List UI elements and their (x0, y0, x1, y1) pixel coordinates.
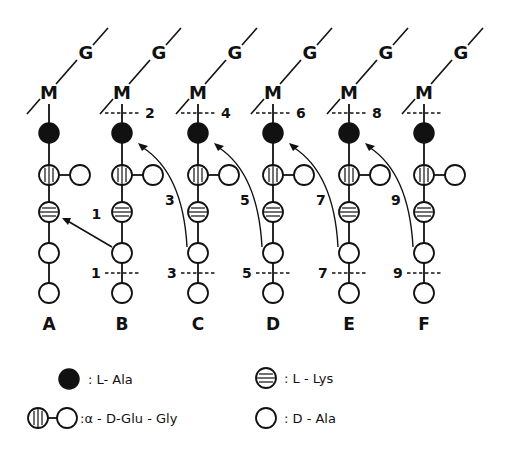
cleavage-number: 9 (393, 265, 403, 281)
gly-residue (143, 165, 163, 185)
muramic-label: M (113, 82, 131, 103)
column-label: B (116, 314, 129, 334)
column-b: MGB21 (91, 28, 181, 334)
l-lys-residue (339, 202, 359, 222)
gly-residue (370, 165, 390, 185)
gly-residue (294, 165, 314, 185)
d-ala-residue (39, 243, 59, 263)
open-circle-icon (256, 408, 276, 428)
l-ala-residue (339, 123, 359, 143)
cleavage-number: 6 (296, 105, 306, 121)
gly-residue (219, 165, 239, 185)
l-lys-residue (263, 202, 283, 222)
l-ala-residue (39, 123, 59, 143)
vertical-striped-circle-with-branch-icon (28, 408, 77, 428)
muramic-label: M (340, 82, 358, 103)
cleavage-number: 1 (91, 265, 101, 281)
legend-label: : L- Ala (88, 372, 133, 387)
muramic-label: M (40, 82, 58, 103)
legend-label: : D - Ala (284, 411, 336, 426)
glucosamine-label: G (79, 42, 94, 63)
l-lys-residue (188, 202, 208, 222)
cleavage-number: 3 (167, 265, 177, 281)
legend-item-glu-gly: :α - D-Glu - Gly (28, 408, 178, 428)
cleavage-number: 5 (242, 265, 252, 281)
crosslink-arrow: 5 (214, 143, 262, 247)
crosslink-number: 7 (316, 192, 326, 208)
l-lys-residue (112, 202, 132, 222)
l-lys-residue (414, 202, 434, 222)
legend-label: :α - D-Glu - Gly (80, 411, 178, 426)
muramic-label: M (415, 82, 433, 103)
terminal-d-ala-residue (188, 283, 208, 303)
glucosamine-label: G (303, 42, 318, 63)
glucosamine-label: G (379, 42, 394, 63)
d-glu-residue (188, 165, 219, 185)
d-ala-residue (188, 243, 208, 263)
d-ala-residue (112, 243, 132, 263)
l-ala-residue (263, 123, 283, 143)
legend: : L- Ala : L - Lys :α - D-Glu - Gly (28, 368, 336, 428)
crosslink-number: 9 (391, 192, 401, 208)
column-label: C (192, 314, 204, 334)
column-label: F (418, 314, 430, 334)
terminal-d-ala-residue (263, 283, 283, 303)
legend-item-d-ala: : D - Ala (256, 408, 336, 428)
crosslink-number: 3 (165, 192, 175, 208)
crosslink-number: 5 (240, 192, 250, 208)
l-ala-residue (414, 123, 434, 143)
l-lys-residue (39, 202, 59, 222)
muramic-label: M (264, 82, 282, 103)
glucosamine-label: G (152, 42, 167, 63)
glycan-strand: MG (100, 28, 181, 114)
filled-circle-icon (59, 369, 79, 389)
gly-residue (70, 165, 90, 185)
cleavage-number: 8 (372, 105, 382, 121)
glycan-strand: MG (251, 28, 332, 114)
d-ala-residue (414, 243, 434, 263)
d-ala-residue (263, 243, 283, 263)
d-glu-residue (263, 165, 294, 185)
crosslink-arrows: 13579 (62, 143, 413, 247)
column-label: A (42, 314, 56, 334)
cleavage-number: 4 (221, 105, 231, 121)
glycan-strand: MG (176, 28, 257, 114)
legend-label: : L - Lys (284, 371, 333, 386)
d-ala-residue (339, 243, 359, 263)
glucosamine-label: G (454, 42, 469, 63)
column-e: MGE87 (318, 28, 408, 334)
l-ala-residue (188, 123, 208, 143)
column-d: MGD65 (242, 28, 332, 334)
column-label: D (266, 314, 280, 334)
d-glu-residue (112, 165, 143, 185)
l-ala-residue (112, 123, 132, 143)
crosslink-arrow: 3 (138, 143, 187, 247)
column-f: MGF9 (393, 28, 483, 334)
crosslink-arrow: 7 (289, 143, 338, 247)
glucosamine-label: G (228, 42, 243, 63)
gly-residue (445, 165, 465, 185)
glycan-strand: MG (27, 28, 108, 114)
terminal-d-ala-residue (39, 283, 59, 303)
column-c: MGC43 (167, 28, 257, 334)
legend-item-l-lys: : L - Lys (256, 368, 333, 388)
terminal-d-ala-residue (414, 283, 434, 303)
peptidoglycan-diagram: MGAMGB21MGC43MGD65MGE87MGF9 13579 : L- A… (0, 0, 506, 451)
terminal-d-ala-residue (112, 283, 132, 303)
columns: MGAMGB21MGC43MGD65MGE87MGF9 (27, 28, 483, 334)
cleavage-number: 2 (145, 105, 155, 121)
crosslink-arrow: 1 (62, 206, 112, 247)
d-glu-residue (39, 165, 70, 185)
glycan-strand: MG (402, 28, 483, 114)
column-a: MGA (27, 28, 108, 334)
terminal-d-ala-residue (339, 283, 359, 303)
crosslink-number: 1 (92, 206, 102, 222)
d-glu-residue (339, 165, 370, 185)
crosslink-arrow: 9 (365, 143, 413, 247)
column-label: E (343, 314, 355, 334)
muramic-label: M (189, 82, 207, 103)
legend-item-l-ala: : L- Ala (59, 369, 133, 389)
d-glu-residue (414, 165, 445, 185)
glycan-strand: MG (327, 28, 408, 114)
horizontal-striped-circle-icon (256, 368, 276, 388)
